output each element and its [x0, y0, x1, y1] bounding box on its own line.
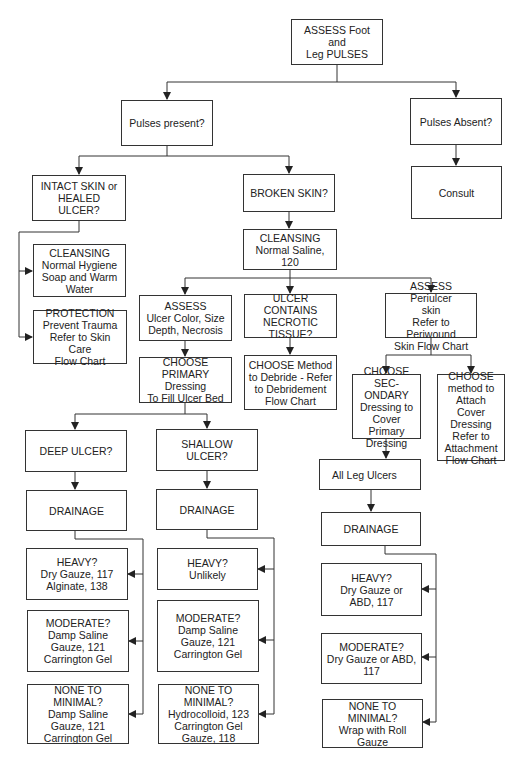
node-text: Soap and Warm [42, 271, 117, 283]
node-intact-skin: INTACT SKIN or HEALED ULCER? [32, 175, 126, 221]
node-cleansing-hygiene: CLEANSING Normal Hygiene Soap and Warm W… [33, 244, 126, 297]
node-text: NECROTIC TISSUE? [248, 316, 333, 340]
node-text: Pulses Absent? [420, 116, 492, 128]
node-text: Ulcer Color, Size [146, 312, 224, 324]
node-text: MODERATE? [339, 641, 404, 653]
node-text: CLEANSING [49, 247, 110, 259]
node-choose-secondary: CHOOSE SEC- ONDARY Dressing to Cover Pri… [352, 374, 421, 439]
node-text: Damp Saline [48, 629, 108, 641]
node-text: Depth, Necrosis [148, 324, 223, 336]
node-text: Refer to Skin Care [37, 331, 123, 355]
node-text: Normal Hygiene [42, 259, 117, 271]
node-broken-skin: BROKEN SKIN? [243, 174, 335, 212]
node-text: Gauze, 121 [181, 636, 235, 648]
node-text: Carrington Gel [174, 648, 242, 660]
node-assess-periulcer: ASSESS Periulcer skin Refer to Periwound… [385, 293, 477, 338]
node-choose-primary: CHOOSE PRIMARY Dressing To Fill Ulcer Be… [139, 357, 232, 403]
node-text: Skin Flow Chart [394, 340, 468, 352]
node-text: CHOOSE [163, 356, 209, 368]
node-text: Attach Cover [441, 394, 501, 418]
node-text: Dry Gauze or ABD, 117 [325, 653, 418, 677]
node-moderate-deep: MODERATE? Damp Saline Gauze, 121 Carring… [27, 610, 129, 672]
node-text: CHOOSE [448, 370, 494, 382]
node-necrotic-tissue: ULCER CONTAINS NECROTIC TISSUE? [244, 294, 337, 338]
node-pulses-absent: Pulses Absent? [410, 98, 502, 145]
node-text: PROTECTION [46, 307, 115, 319]
node-moderate-leg: MODERATE? Dry Gauze or ABD, 117 [321, 633, 422, 684]
node-choose-attach: CHOOSE method to Attach Cover Dressing R… [437, 374, 505, 461]
node-text: BROKEN SKIN? [250, 187, 328, 199]
node-text: CLEANSING [260, 232, 321, 244]
node-text: To Fill Ulcer Bed [147, 392, 223, 404]
node-text: Gauze, 118 [182, 732, 236, 744]
node-moderate-shallow: MODERATE? Damp Saline Gauze, 121 Carring… [157, 600, 259, 672]
node-text: Refer to Periwound [389, 316, 473, 340]
node-none-deep: NONE TO MINIMAL? Damp Saline Gauze, 121 … [27, 684, 129, 744]
node-text: MODERATE? [176, 612, 241, 624]
node-text: CHOOSE SEC- [356, 365, 417, 389]
node-text: Damp Saline [48, 708, 108, 720]
node-deep-ulcer: DEEP ULCER? [25, 430, 127, 472]
node-all-leg-ulcers: All Leg Ulcers [319, 459, 421, 490]
node-consult: Consult [411, 166, 502, 219]
node-assess-ulcer: ASSESS Ulcer Color, Size Depth, Necrosis [139, 295, 232, 341]
node-text: Gauze, 121 [51, 720, 105, 732]
node-text: Prevent Trauma [43, 319, 118, 331]
node-assess-pulses: ASSESS Foot and Leg PULSES [291, 19, 383, 65]
node-heavy-shallow: HEAVY? Unlikely [157, 548, 258, 590]
node-text: Gauze, 121 [51, 641, 105, 653]
node-text: ULCER CONTAINS [248, 292, 333, 316]
node-text: Cover Primary [356, 413, 417, 437]
node-text: ASSESS Periulcer [389, 280, 473, 304]
node-drainage-deep: DRAINAGE [26, 490, 127, 531]
node-drainage-leg: DRAINAGE [321, 512, 421, 546]
node-text: MODERATE? [46, 617, 111, 629]
node-heavy-deep: HEAVY? Dry Gauze, 117 Alginate, 138 [26, 548, 128, 600]
node-text: HEAVY? [57, 556, 98, 568]
node-text: ONDARY [364, 389, 409, 401]
node-text: DRAINAGE [344, 523, 399, 535]
node-text: NONE TO MINIMAL? [162, 684, 255, 708]
node-text: Carrington Gel [44, 732, 112, 744]
node-heavy-leg: HEAVY? Dry Gauze or ABD, 117 [321, 563, 422, 616]
node-cleansing-saline: CLEANSING Normal Saline, 120 [243, 229, 337, 270]
node-text: Flow Chart [265, 395, 316, 407]
node-text: DRAINAGE [49, 505, 104, 517]
node-text: Dressing to [360, 401, 413, 413]
node-text: Consult [439, 187, 475, 199]
node-text: Pulses present? [129, 117, 204, 129]
node-text: Wrap with Roll Gauze [326, 724, 419, 748]
node-text: Dressing [450, 418, 491, 430]
node-text: PRIMARY Dressing [143, 368, 228, 392]
node-text: INTACT SKIN or [41, 180, 118, 192]
node-text: ABD, 117 [349, 596, 393, 608]
node-text: Carrington Gel [174, 720, 242, 732]
node-text: NONE TO MINIMAL? [31, 684, 125, 708]
node-text: HEAVY? [187, 557, 228, 569]
node-text: Attachment [444, 442, 497, 454]
node-text: Leg PULSES [306, 48, 368, 60]
node-protection: PROTECTION Prevent Trauma Refer to Skin … [33, 310, 127, 364]
node-drainage-shallow: DRAINAGE [156, 489, 258, 530]
node-shallow-ulcer: SHALLOW ULCER? [156, 429, 258, 471]
node-text: Hydrocolloid, 123 [168, 708, 249, 720]
node-text: Carrington Gel [44, 653, 112, 665]
node-text: Dressing [366, 437, 407, 449]
node-text: HEALED ULCER? [36, 192, 122, 216]
node-text: ASSESS Foot and [295, 24, 379, 48]
node-text: ASSESS [164, 300, 206, 312]
node-text: to Debride - Refer [249, 371, 332, 383]
node-text: Refer to [452, 430, 489, 442]
node-text: to Debridement [255, 383, 327, 395]
node-text: Flow Chart [446, 454, 497, 466]
node-text: SHALLOW ULCER? [160, 438, 254, 462]
node-none-shallow: NONE TO MINIMAL? Hydrocolloid, 123 Carri… [158, 684, 259, 744]
node-text: skin [422, 304, 441, 316]
node-text: Dry Gauze or [340, 584, 402, 596]
node-none-leg: NONE TO MINIMAL? Wrap with Roll Gauze [322, 699, 423, 748]
node-text: Alginate, 138 [46, 580, 107, 592]
node-choose-debride: CHOOSE Method to Debride - Refer to Debr… [244, 355, 337, 410]
node-text: Unlikely [189, 569, 226, 581]
node-text: NONE TO MINIMAL? [326, 700, 419, 724]
node-pulses-present: Pulses present? [121, 100, 213, 146]
